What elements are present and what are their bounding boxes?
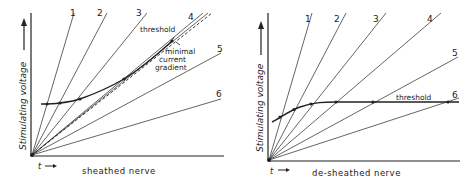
- line-label-1: 1: [70, 8, 76, 18]
- time-label: t: [38, 162, 42, 171]
- line-label-3: 3: [373, 14, 379, 24]
- ramp-line-4: [269, 13, 441, 160]
- ramp-line-1: [269, 13, 312, 160]
- voltage-arrow-icon: [258, 21, 264, 55]
- line-label-4: 4: [427, 14, 433, 24]
- threshold-label: threshold: [396, 93, 432, 102]
- line-label-5: 5: [217, 44, 223, 54]
- ramp-line-3: [32, 13, 147, 155]
- line-label-2: 2: [97, 8, 103, 18]
- line-label-1: 1: [305, 14, 311, 24]
- gradient-label-3: gradient: [155, 63, 187, 72]
- ramp-line-2: [32, 13, 107, 155]
- minimal-gradient-line: [32, 13, 212, 155]
- time-arrow-icon: [278, 168, 290, 172]
- ramp-line-6: [32, 99, 221, 155]
- threshold-label: threshold: [140, 25, 176, 34]
- ramp-line-4: [32, 13, 203, 155]
- ramp-line-2: [269, 13, 346, 160]
- x-axis-label: de-sheathed nerve: [312, 168, 401, 178]
- time-label: t: [270, 167, 274, 176]
- gradient-pointer: [176, 42, 180, 45]
- y-axis-label: Stimulating voltage: [18, 61, 28, 150]
- panel-sheathed: [31, 13, 224, 156]
- ramp-line-3: [269, 13, 386, 160]
- y-axis-label: Stimulating voltage: [255, 63, 265, 152]
- voltage-arrow-icon: [21, 18, 27, 50]
- threshold-curve: [272, 102, 459, 122]
- line-label-5: 5: [452, 48, 458, 58]
- panel-de-sheathed: [268, 13, 460, 161]
- line-label-6: 6: [216, 89, 222, 99]
- x-axis-label: sheathed nerve: [82, 166, 156, 176]
- line-label-2: 2: [334, 14, 340, 24]
- time-arrow-icon: [45, 164, 57, 168]
- diagram: 1 2 3 4 5 6 threshold minimal current gr…: [0, 0, 474, 184]
- ramp-line-4b: [32, 13, 208, 155]
- line-label-4: 4: [188, 12, 194, 22]
- line-label-6: 6: [452, 90, 458, 100]
- ramp-line-1: [32, 13, 74, 155]
- line-label-3: 3: [136, 8, 142, 18]
